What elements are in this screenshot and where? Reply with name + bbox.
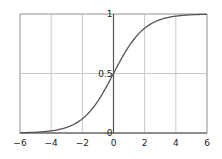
y-tick-label: 0.5 [98,69,112,79]
x-tick-label: 0 [111,138,117,148]
y-tick-label: 1 [107,9,113,19]
x-tick-label: 4 [173,138,179,148]
y-tick-labels: 00.51 [98,9,113,138]
x-tick-label: 2 [142,138,148,148]
x-tick-label: 6 [204,138,210,148]
sigmoid-chart: −6−4−20246 00.51 [0,0,222,159]
y-tick-label: 0 [107,128,113,138]
x-tick-label: −2 [76,138,89,148]
x-tick-labels: −6−4−20246 [13,138,210,148]
x-tick-label: −4 [45,138,59,148]
x-tick-label: −6 [13,138,27,148]
